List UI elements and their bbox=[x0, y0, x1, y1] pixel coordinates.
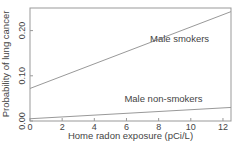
series-label: Male non-smokers bbox=[124, 93, 202, 104]
x-tick-label: 12 bbox=[218, 122, 228, 132]
line-chart: 024681012 0.000.100.20 Male smokersMale … bbox=[0, 0, 239, 151]
series-line bbox=[30, 107, 231, 118]
series-label: Male smokers bbox=[150, 33, 209, 44]
y-tick-label: 0.00 bbox=[17, 112, 27, 130]
y-axis-label: Probability of lung cancer bbox=[0, 11, 11, 118]
series-line bbox=[30, 12, 231, 89]
plot-frame bbox=[30, 8, 231, 121]
series-labels: Male smokersMale non-smokers bbox=[124, 33, 209, 104]
x-tick-label: 0 bbox=[27, 122, 32, 132]
y-tick-label: 0.20 bbox=[17, 22, 27, 40]
y-axis: 0.000.100.20 bbox=[17, 22, 33, 130]
x-axis-label: Home radon exposure (pCi/L) bbox=[68, 130, 193, 141]
y-tick-label: 0.10 bbox=[17, 67, 27, 85]
x-tick-label: 2 bbox=[60, 122, 65, 132]
